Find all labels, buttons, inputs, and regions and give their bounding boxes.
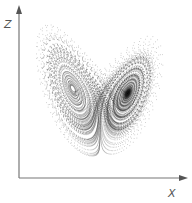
z-axis-arrow-icon <box>16 5 22 14</box>
z-axis-label: Z <box>4 19 12 30</box>
x-axis-label: X <box>168 188 176 199</box>
x-axis-arrow-icon <box>179 175 188 181</box>
lorenz-plot <box>0 0 192 203</box>
attractor-points <box>36 25 163 156</box>
